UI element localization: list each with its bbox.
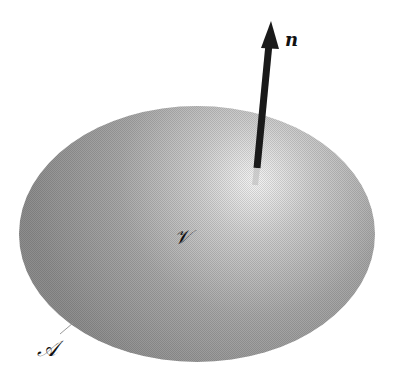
surface-label: 𝒜 bbox=[37, 336, 64, 361]
normal-label: n bbox=[285, 29, 298, 50]
diagram-canvas: n 𝒱 𝒜 bbox=[0, 0, 396, 378]
surface-leader-line bbox=[60, 323, 73, 334]
